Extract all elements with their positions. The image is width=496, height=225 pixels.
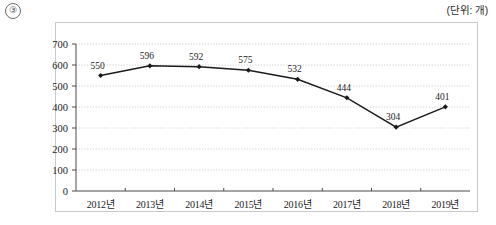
x-axis-tick-label: 2017년 (333, 196, 361, 211)
y-axis-tick-label: 500 (34, 81, 68, 92)
y-axis-tick-label: 600 (34, 60, 68, 71)
x-axis-tick-label: 2014년 (185, 196, 213, 211)
data-value-label: 550 (91, 61, 105, 71)
y-axis-tick-label: 400 (34, 102, 68, 113)
figure-index-badge: ③ (5, 3, 21, 19)
chart-panel (55, 22, 478, 212)
data-value-label: 304 (386, 112, 400, 122)
y-axis-tick-label: 700 (34, 39, 68, 50)
y-axis-tick-label: 200 (34, 144, 68, 155)
data-value-label: 575 (238, 55, 252, 65)
y-axis-tick-label: 100 (34, 165, 68, 176)
x-axis-tick-label: 2019년 (432, 196, 460, 211)
data-value-label: 592 (189, 52, 203, 62)
x-axis-tick-label: 2016년 (284, 196, 312, 211)
data-value-label: 596 (140, 51, 154, 61)
unit-note-label: (단위: 개) (447, 2, 488, 17)
y-axis-tick-label: 300 (34, 123, 68, 134)
x-axis-tick-label: 2015년 (235, 196, 263, 211)
x-axis-tick-label: 2013년 (136, 196, 164, 211)
data-value-label: 532 (288, 64, 302, 74)
data-value-label: 401 (435, 92, 449, 102)
x-axis-tick-label: 2018년 (382, 196, 410, 211)
data-value-label: 444 (337, 83, 351, 93)
x-axis-tick-label: 2012년 (87, 196, 115, 211)
y-axis-tick-label: 0 (34, 186, 68, 197)
